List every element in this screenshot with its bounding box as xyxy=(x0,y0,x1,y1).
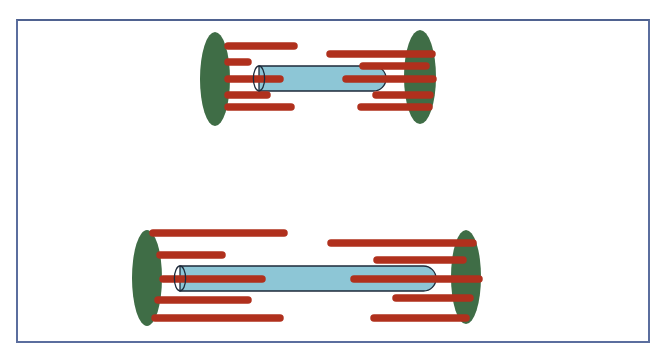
elongated-spindle xyxy=(132,230,481,326)
spindle-diagram xyxy=(0,0,668,361)
left-pole xyxy=(132,230,162,326)
short-spindle xyxy=(200,30,436,126)
